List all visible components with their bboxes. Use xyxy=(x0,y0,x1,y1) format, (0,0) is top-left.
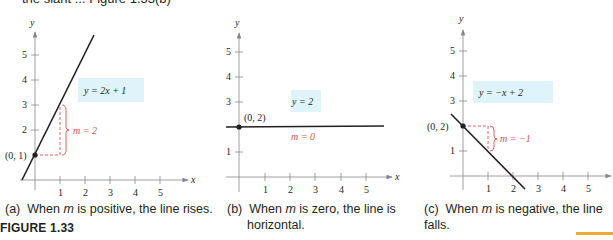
y-tick-2: 2 xyxy=(22,124,27,135)
caption-post-b: is zero, the line is xyxy=(296,202,396,216)
caption-pre-c: When xyxy=(446,202,482,216)
equation-a: y = 2x + 1 xyxy=(83,85,126,96)
x-tick-5: 5 xyxy=(158,187,163,198)
x-tick-2: 2 xyxy=(511,183,516,194)
figure-label: FIGURE 1.33 xyxy=(0,221,74,235)
caption-c: (c) When m is negative, the line falls. xyxy=(424,201,613,233)
graph-c: y 1 2 3 4 5 1 3 4 5 m = −1 (0, 2) y = −x… xyxy=(427,13,611,194)
x-tick-1: 1 xyxy=(263,184,268,195)
graph-b: y x 1 2 3 4 5 1 3 4 5 (0, 2) y = 2 m = 0 xyxy=(226,17,400,195)
caption-var-b: m xyxy=(285,202,295,216)
slope-label-a: m = 2 xyxy=(73,125,97,136)
y-axis-label-b: y xyxy=(234,17,240,28)
graph-a: y x 1 2 3 4 5 2 3 4 5 m = 2 (0, 1) y = 2… xyxy=(5,17,196,198)
caption-var-a: m xyxy=(63,202,73,216)
caption-line2-b: horizontal. xyxy=(227,218,305,232)
x-tick-5: 5 xyxy=(586,183,591,194)
point-label-a: (0, 1) xyxy=(5,150,27,162)
y-tick-5: 5 xyxy=(450,45,455,56)
caption-var-c: m xyxy=(482,202,492,216)
x-tick-1: 1 xyxy=(58,187,63,198)
equation-c: y = −x + 2 xyxy=(478,87,523,98)
y-tick-4: 4 xyxy=(226,71,231,82)
caption-post-a: is positive, the line rises. xyxy=(74,202,213,216)
equation-b: y = 2 xyxy=(291,96,313,107)
x-tick-1: 1 xyxy=(486,183,491,194)
point-c xyxy=(460,123,465,128)
x-tick-3: 3 xyxy=(536,183,541,194)
x-tick-4: 4 xyxy=(133,187,138,198)
decorative-rule xyxy=(576,232,613,235)
caption-b: (b) When m is zero, the line is horizont… xyxy=(227,201,396,233)
x-tick-2: 2 xyxy=(83,187,88,198)
x-tick-2: 2 xyxy=(288,184,293,195)
line-b xyxy=(226,126,384,127)
y-axis-label-c: y xyxy=(458,13,464,24)
point-b xyxy=(236,124,241,129)
x-axis-label-a: x xyxy=(190,174,196,185)
y-tick-5: 5 xyxy=(226,46,231,57)
caption-a: (a) When m is positive, the line rises. xyxy=(5,201,213,217)
y-tick-5: 5 xyxy=(22,49,27,60)
y-tick-3: 3 xyxy=(226,96,231,107)
caption-prefix-a: (a) xyxy=(5,202,20,216)
slope-label-b: m = 0 xyxy=(291,131,315,142)
y-tick-3: 3 xyxy=(450,95,455,106)
y-tick-4: 4 xyxy=(450,70,455,81)
point-label-c: (0, 2) xyxy=(427,121,449,133)
y-axis-label-a: y xyxy=(29,17,35,28)
x-tick-3: 3 xyxy=(108,187,113,198)
line-a xyxy=(22,35,94,180)
caption-prefix-b: (b) xyxy=(227,202,242,216)
x-tick-4: 4 xyxy=(561,183,566,194)
slope-label-c: m = −1 xyxy=(500,133,531,144)
y-tick-1: 1 xyxy=(226,146,231,157)
slope-brace-a xyxy=(62,105,69,155)
slope-brace-c xyxy=(490,126,497,151)
point-label-b: (0, 2) xyxy=(244,112,266,124)
y-tick-3: 3 xyxy=(22,99,27,110)
y-tick-4: 4 xyxy=(22,74,27,85)
x-axis-label-b: x xyxy=(394,171,400,182)
y-tick-1: 1 xyxy=(450,145,455,156)
x-tick-4: 4 xyxy=(339,184,344,195)
x-tick-3: 3 xyxy=(313,184,318,195)
point-a xyxy=(32,152,37,157)
x-tick-5: 5 xyxy=(364,184,369,195)
caption-pre-b: When xyxy=(249,202,285,216)
caption-prefix-c: (c) xyxy=(424,202,439,216)
caption-pre-a: When xyxy=(27,202,63,216)
